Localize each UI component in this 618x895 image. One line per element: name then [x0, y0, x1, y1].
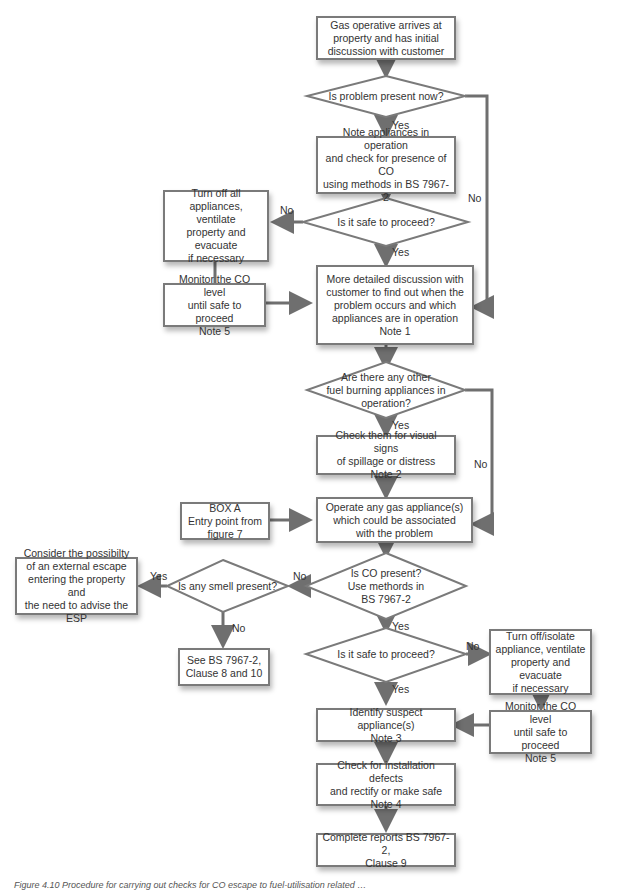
- monitor-co-level-box-2: Monitor the CO level until safe to proce…: [489, 710, 592, 754]
- label-yes-safe-2: Yes: [392, 683, 409, 695]
- label-yes-co: Yes: [392, 620, 409, 632]
- label-no-problem: No: [468, 192, 481, 204]
- complete-reports-box: Complete reports BS 7967-2, Clause 9: [316, 833, 456, 867]
- see-bs-box: See BS 7967-2, Clause 8 and 10: [178, 648, 270, 686]
- decision-text-co-present: Is CO present? Use methords in BS 7967-2: [326, 566, 446, 606]
- label-no-safe-1: No: [280, 204, 293, 216]
- turn-off-all-box: Turn off all appliances, ventilate prope…: [163, 190, 269, 262]
- decision-text-safe-1: Is it safe to proceed?: [316, 212, 456, 232]
- figure-caption: Figure 4.10 Procedure for carrying out c…: [14, 880, 366, 890]
- decision-text-problem-present: Is problem present now?: [316, 86, 456, 106]
- label-no-other-fuel: No: [474, 458, 487, 470]
- label-yes-safe-1: Yes: [392, 246, 409, 258]
- identify-suspect-box: Identify suspect appliance(s) Note 3: [316, 708, 456, 742]
- monitor-co-level-box-1: Monitor the CO level until safe to proce…: [163, 283, 266, 327]
- operate-gas-appliance-box: Operate any gas appliance(s) which could…: [316, 497, 473, 543]
- label-yes-smell: Yes: [150, 570, 167, 582]
- label-yes-other-fuel: Yes: [392, 419, 409, 431]
- label-no-safe-2: No: [466, 640, 479, 652]
- decision-text-safe-2: Is it safe to proceed?: [316, 644, 456, 664]
- start-box: Gas operative arrives at property and ha…: [316, 16, 456, 60]
- label-no-smell: No: [232, 622, 245, 634]
- label-no-co: No: [293, 570, 306, 582]
- decision-text-smell: Is any smell present?: [170, 576, 285, 596]
- label-yes-problem: Yes: [392, 119, 409, 131]
- external-escape-box: Consider the possibilty of an external e…: [15, 557, 138, 615]
- turn-off-isolate-box: Turn off/isolate appliance, ventilate pr…: [489, 629, 592, 695]
- note-appliances-box: Note appliances in operation and check f…: [316, 136, 456, 194]
- decision-text-other-fuel: Are there any other fuel burning applian…: [316, 370, 456, 410]
- detailed-discussion-box: More detailed discussion with customer t…: [316, 265, 474, 345]
- box-a-entry-point: BOX A Entry point from figure 7: [180, 502, 270, 540]
- check-visual-signs-box: Check them for visual signs of spillage …: [316, 435, 456, 475]
- check-defects-box: Check for installation defects and recti…: [316, 763, 456, 806]
